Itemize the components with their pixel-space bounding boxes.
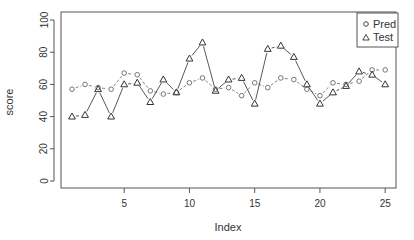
test-segment — [100, 93, 110, 113]
test-triangle-marker-icon — [277, 42, 284, 48]
pred-segment — [180, 85, 187, 90]
test-triangle-marker-icon — [160, 76, 167, 82]
test-segment — [192, 46, 200, 56]
test-triangle-marker-icon — [330, 89, 337, 95]
legend: Pred Test — [357, 13, 398, 47]
legend-pred-label: Pred — [373, 18, 396, 30]
y-tick-label: 100 — [39, 11, 50, 28]
test-triangle-marker-icon — [225, 76, 232, 82]
pred-segment — [350, 82, 355, 83]
series-test — [69, 39, 389, 119]
test-triangle-marker-icon — [108, 113, 115, 119]
pred-circle-marker-icon — [200, 76, 205, 81]
pred-segment — [154, 92, 159, 93]
test-segment — [139, 86, 148, 99]
pred-segment — [232, 90, 238, 94]
line-chart: 020406080100 510152025 score Index Pred … — [0, 0, 414, 240]
test-segment — [219, 82, 226, 88]
test-triangle-marker-icon — [134, 79, 141, 85]
y-tick-label: 0 — [39, 178, 50, 184]
test-triangle-marker-icon — [121, 81, 128, 87]
x-tick-label: 20 — [314, 198, 326, 209]
test-segment — [87, 93, 96, 112]
pred-segment — [323, 86, 330, 93]
x-axis-label: Index — [215, 221, 242, 233]
test-segment — [166, 82, 173, 89]
test-segment — [256, 53, 267, 100]
pred-circle-marker-icon — [226, 85, 231, 90]
test-segment — [323, 95, 330, 101]
pred-segment — [114, 76, 122, 86]
legend-test-label: Test — [373, 31, 393, 43]
test-segment — [309, 88, 318, 101]
test-triangle-marker-icon — [382, 81, 389, 87]
test-segment — [337, 88, 343, 91]
pred-circle-marker-icon — [187, 80, 192, 85]
pred-segment — [140, 78, 148, 88]
test-segment — [113, 88, 123, 113]
test-triangle-marker-icon — [238, 74, 245, 80]
test-segment — [349, 74, 357, 83]
test-segment — [128, 83, 133, 84]
pred-circle-marker-icon — [383, 68, 388, 73]
test-triangle-marker-icon — [356, 68, 363, 74]
x-axis: 510152025 — [121, 188, 391, 209]
test-triangle-marker-icon — [186, 55, 193, 61]
y-tick-label: 20 — [39, 143, 50, 155]
y-tick-label: 40 — [39, 111, 50, 123]
test-triangle-marker-icon — [147, 99, 154, 105]
pred-segment — [128, 74, 133, 75]
y-tick-label: 60 — [39, 78, 50, 90]
pred-segment — [206, 81, 213, 87]
test-triangle-marker-icon — [290, 53, 297, 59]
test-segment — [152, 83, 161, 99]
pred-segment — [167, 93, 172, 94]
test-triangle-marker-icon — [304, 81, 311, 87]
pred-segment — [337, 83, 342, 84]
pred-segment — [193, 79, 199, 81]
x-tick-label: 5 — [121, 198, 127, 209]
test-segment — [296, 61, 306, 81]
series-pred — [70, 68, 388, 98]
test-segment — [178, 62, 188, 88]
pred-circle-marker-icon — [70, 87, 75, 92]
pred-segment — [220, 88, 225, 89]
test-segment — [375, 77, 382, 82]
test-segment — [204, 46, 215, 87]
plot-frame — [61, 12, 396, 188]
test-triangle-marker-icon — [264, 45, 271, 51]
pred-circle-marker-icon — [239, 93, 244, 98]
test-triangle-marker-icon — [317, 100, 324, 106]
pred-segment — [76, 86, 82, 88]
test-triangle-marker-icon — [69, 113, 76, 119]
pred-circle-marker-icon — [292, 77, 297, 82]
test-segment — [233, 78, 238, 79]
pred-circle-marker-icon — [305, 87, 310, 92]
y-tick-label: 80 — [39, 46, 50, 58]
pred-segment — [102, 88, 107, 89]
pred-circle-marker-icon — [357, 79, 362, 84]
pred-circle-marker-icon — [265, 85, 270, 90]
pred-circle-marker-icon — [279, 76, 284, 81]
pred-circle-marker-icon — [161, 92, 166, 97]
test-triangle-marker-icon — [251, 100, 258, 106]
test-segment — [284, 48, 291, 54]
pred-circle-marker-icon — [109, 87, 114, 92]
pred-segment — [285, 78, 290, 79]
series-layer — [69, 39, 389, 119]
pred-circle-marker-icon — [148, 89, 153, 94]
pred-circle-marker-icon — [135, 72, 140, 77]
test-segment — [76, 115, 81, 116]
test-triangle-marker-icon — [82, 111, 89, 117]
x-tick-label: 25 — [380, 198, 392, 209]
test-segment — [272, 47, 277, 48]
pred-segment — [89, 85, 94, 86]
pred-circle-marker-icon — [318, 93, 323, 98]
pred-circle-marker-icon — [252, 80, 257, 85]
y-axis-label: score — [3, 89, 15, 116]
pred-segment — [297, 82, 304, 87]
test-triangle-marker-icon — [369, 71, 376, 77]
x-tick-label: 15 — [249, 198, 261, 209]
pred-circle-marker-icon — [331, 80, 336, 85]
x-tick-label: 10 — [184, 198, 196, 209]
